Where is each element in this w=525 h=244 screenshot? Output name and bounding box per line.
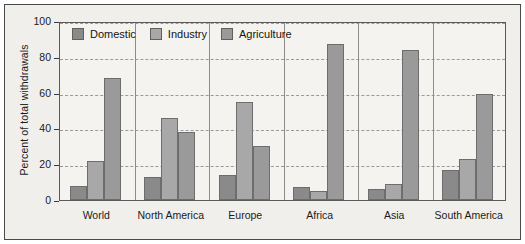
bar-agriculture-north-america (178, 132, 195, 200)
y-tick-label: 40 (11, 123, 51, 134)
y-axis-title: Percent of total withdrawals (18, 20, 30, 200)
legend-item-agriculture: Agriculture (221, 28, 292, 40)
bar-agriculture-europe (253, 146, 270, 200)
legend-label: Agriculture (239, 28, 292, 40)
legend-item-domestic: Domestic (72, 28, 136, 40)
bar-industry-north-america (161, 118, 178, 200)
industry-swatch-icon (150, 28, 162, 40)
bar-agriculture-south-america (476, 94, 493, 200)
y-tick-label: 80 (11, 52, 51, 63)
y-tick-label: 100 (11, 16, 51, 27)
x-tick-label-africa: Africa (306, 209, 333, 221)
chart-figure: Percent of total withdrawals 02040608010… (0, 0, 525, 244)
x-tick-label-europe: Europe (228, 209, 262, 221)
bar-domestic-europe (219, 175, 236, 200)
domestic-swatch-icon (72, 28, 84, 40)
x-tick-label-world: World (83, 209, 110, 221)
legend-item-industry: Industry (150, 28, 207, 40)
bar-agriculture-africa (327, 44, 344, 200)
bar-industry-africa (310, 191, 327, 200)
bar-agriculture-world (104, 78, 121, 200)
bar-domestic-world (70, 186, 87, 200)
bar-industry-asia (385, 184, 402, 200)
bar-industry-world (87, 161, 104, 200)
y-tick-label: 60 (11, 88, 51, 99)
y-tick-mark (54, 201, 59, 202)
agriculture-swatch-icon (221, 28, 233, 40)
bar-domestic-asia (368, 189, 385, 200)
bar-industry-europe (236, 102, 253, 200)
bar-domestic-north-america (144, 177, 161, 200)
y-tick-label: 0 (11, 195, 51, 206)
plot-area (59, 22, 506, 201)
legend-label: Industry (168, 28, 207, 40)
x-tick-label-north-america: North America (137, 209, 204, 221)
bar-agriculture-asia (402, 50, 419, 200)
chart-legend: DomesticIndustryAgriculture (72, 28, 292, 40)
bar-domestic-africa (293, 187, 310, 200)
bar-domestic-south-america (442, 170, 459, 200)
y-tick-label: 20 (11, 159, 51, 170)
x-tick-label-south-america: South America (435, 209, 503, 221)
bar-industry-south-america (459, 159, 476, 200)
bars-layer (60, 23, 505, 200)
x-tick-label-asia: Asia (384, 209, 404, 221)
legend-label: Domestic (90, 28, 136, 40)
